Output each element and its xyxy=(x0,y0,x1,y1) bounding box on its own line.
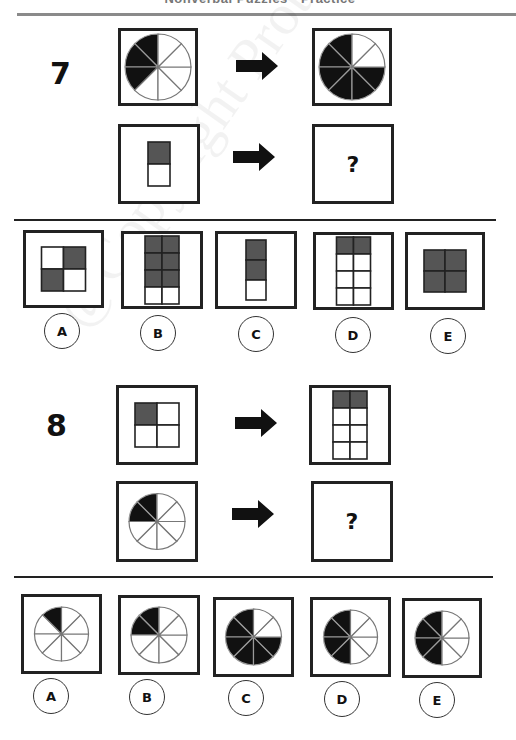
question-number-7: 7 xyxy=(50,56,71,91)
q8-option-c-label[interactable]: C xyxy=(228,680,264,716)
q7-row1-left-figure xyxy=(118,28,198,106)
q7-row1-right-figure xyxy=(312,28,392,106)
divider xyxy=(14,219,496,221)
q7-row2-left-figure xyxy=(118,124,200,204)
right-arrow-icon xyxy=(235,409,277,437)
q8-option-d-figure[interactable] xyxy=(310,597,391,677)
q8-option-e-figure[interactable] xyxy=(402,598,482,678)
q7-option-e-label[interactable]: E xyxy=(430,318,466,354)
q8-option-a-label[interactable]: A xyxy=(33,678,69,714)
q7-option-b-figure[interactable] xyxy=(121,231,203,309)
q8-row2-left-figure xyxy=(116,481,198,562)
divider xyxy=(14,576,493,578)
q7-option-e-figure[interactable] xyxy=(405,232,485,310)
question-number-8: 8 xyxy=(46,408,67,443)
q8-option-c-figure[interactable] xyxy=(213,597,294,677)
q7-option-a-figure[interactable] xyxy=(23,230,104,308)
q8-row1-right-figure xyxy=(309,385,391,465)
q8-answer-placeholder: ? xyxy=(311,481,393,562)
right-arrow-icon xyxy=(232,500,274,528)
q7-answer-placeholder: ? xyxy=(312,124,394,204)
q7-option-c-label[interactable]: C xyxy=(238,316,274,352)
q7-option-b-label[interactable]: B xyxy=(140,315,176,351)
q8-option-e-label[interactable]: E xyxy=(419,682,455,718)
q8-option-d-label[interactable]: D xyxy=(324,681,360,717)
q7-option-a-label[interactable]: A xyxy=(44,313,80,349)
q8-option-a-figure[interactable] xyxy=(21,594,102,674)
right-arrow-icon xyxy=(236,52,278,80)
q8-option-b-label[interactable]: B xyxy=(129,679,165,715)
q7-option-d-figure[interactable] xyxy=(313,232,394,310)
q8-row1-left-figure xyxy=(116,385,198,465)
q8-option-b-figure[interactable] xyxy=(118,595,200,675)
right-arrow-icon xyxy=(233,143,275,171)
q7-option-c-figure[interactable] xyxy=(215,231,297,309)
q7-option-d-label[interactable]: D xyxy=(335,317,371,353)
